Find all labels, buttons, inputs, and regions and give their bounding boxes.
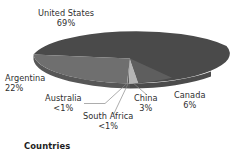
slice-label-australia-name: Australia (45, 93, 82, 103)
slice-label-australia-value: <1% (45, 104, 82, 114)
slice-label-united-states-name: United States (38, 8, 94, 18)
slice-label-argentina-value: 22% (5, 84, 45, 94)
slice-label-canada: Canada 6% (174, 91, 205, 110)
slice-label-canada-value: 6% (174, 101, 205, 111)
slice-label-south-africa-name: South Africa (83, 111, 133, 121)
slice-label-argentina-name: Argentina (5, 73, 45, 83)
slice-label-argentina: Argentina 22% (5, 74, 45, 93)
slice-label-united-states-value: 69% (38, 19, 94, 29)
slice-label-china-value: 3% (134, 104, 158, 114)
slice-label-south-africa-value: <1% (83, 122, 133, 132)
slice-label-south-africa: South Africa <1% (83, 112, 133, 131)
slice-label-canada-name: Canada (174, 90, 205, 100)
slice-label-china-name: China (134, 93, 158, 103)
chart-caption: Countries (24, 141, 70, 151)
slice-label-china: China 3% (134, 94, 158, 113)
slice-label-australia: Australia <1% (45, 94, 82, 113)
slice-label-united-states: United States 69% (38, 9, 94, 28)
pie-chart-figure: United States 69% Argentina 22% Australi… (0, 0, 250, 156)
